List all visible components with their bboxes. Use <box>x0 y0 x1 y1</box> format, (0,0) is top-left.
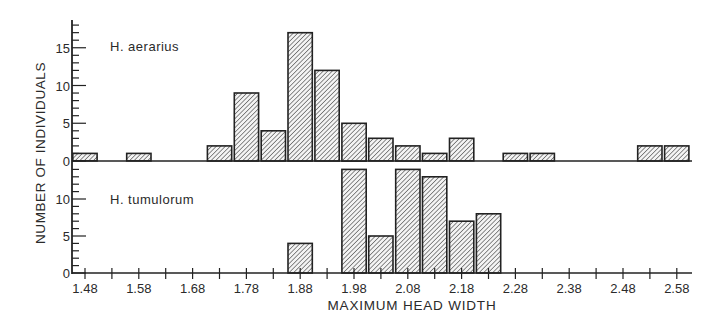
y-tick-label: 10 <box>56 78 70 93</box>
x-tick-label: 1.68 <box>180 281 205 296</box>
panel-label-aerarius: H. aerarius <box>110 39 179 54</box>
x-tick-label: 1.78 <box>234 281 259 296</box>
x-tick-label: 2.38 <box>557 281 582 296</box>
x-tick-label: 1.88 <box>288 281 313 296</box>
histogram-bar <box>73 153 97 161</box>
histogram-bar <box>450 221 474 273</box>
histogram-bar <box>476 214 500 273</box>
tumulorum-bars <box>288 169 501 273</box>
histogram-bar <box>342 123 366 161</box>
x-tick-label: 1.98 <box>341 281 366 296</box>
y-axis-label: NUMBER OF INDIVIDUALS <box>33 62 48 244</box>
x-tick-label: 2.28 <box>503 281 528 296</box>
histogram-bar <box>423 177 447 273</box>
y-tick-label: 0 <box>63 154 70 169</box>
histogram-bar <box>638 146 662 161</box>
histogram-bar <box>423 153 447 161</box>
x-axis-label: MAXIMUM HEAD WIDTH <box>328 298 497 313</box>
histogram-bar <box>342 169 366 273</box>
histogram-bar <box>396 146 420 161</box>
histogram-bar <box>503 153 527 161</box>
histogram-bar <box>288 33 312 161</box>
histogram-bar <box>315 70 339 161</box>
panel-label-tumulorum: H. tumulorum <box>110 192 194 207</box>
x-tick-label: 1.58 <box>126 281 151 296</box>
y-tick-label: 10 <box>56 192 70 207</box>
histogram-bar <box>530 153 554 161</box>
histogram-bar <box>127 153 151 161</box>
histogram-bar <box>396 169 420 273</box>
histogram-bar <box>450 138 474 161</box>
x-tick-label: 2.18 <box>449 281 474 296</box>
histogram-bar <box>665 146 689 161</box>
histogram-bar <box>369 236 393 273</box>
y-tick-label: 5 <box>63 229 70 244</box>
y-tick-label: 0 <box>63 266 70 281</box>
x-tick-label: 1.48 <box>72 281 97 296</box>
histogram-bar <box>261 131 285 161</box>
histogram-bar <box>369 138 393 161</box>
x-tick-label: 2.48 <box>610 281 635 296</box>
x-tick-label: 2.58 <box>664 281 689 296</box>
y-tick-label: 15 <box>56 40 70 55</box>
histogram-bar <box>207 146 231 161</box>
histogram-bar <box>234 93 258 161</box>
y-tick-label: 5 <box>63 116 70 131</box>
x-tick-label: 2.08 <box>395 281 420 296</box>
